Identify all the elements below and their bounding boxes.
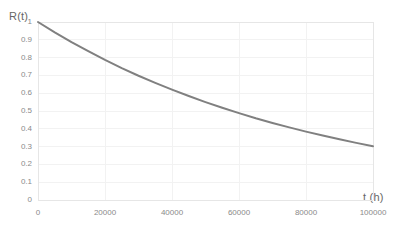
y-tick-label: 1 (8, 17, 32, 26)
reliability-chart: R(t) t (h) 00.10.20.30.40.50.60.70.80.91… (0, 0, 404, 239)
y-tick-label: 0.3 (8, 142, 32, 151)
x-tick-label: 100000 (350, 208, 396, 217)
x-tick-label: 0 (15, 208, 61, 217)
x-tick-label: 40000 (149, 208, 195, 217)
y-tick-label: 0.8 (8, 53, 32, 62)
x-tick-label: 60000 (216, 208, 262, 217)
y-tick-label: 0.9 (8, 35, 32, 44)
y-tick-label: 0.5 (8, 106, 32, 115)
y-tick-label: 0.1 (8, 177, 32, 186)
y-tick-label: 0.4 (8, 124, 32, 133)
series-line-0 (38, 22, 373, 146)
y-tick-label: 0 (8, 195, 32, 204)
gridlines (38, 22, 373, 200)
y-tick-label: 0.7 (8, 70, 32, 79)
x-tick-label: 20000 (82, 208, 128, 217)
y-tick-label: 0.6 (8, 88, 32, 97)
data-series-layer (38, 22, 373, 146)
y-tick-label: 0.2 (8, 159, 32, 168)
plot-area (0, 0, 404, 239)
x-tick-label: 80000 (283, 208, 329, 217)
